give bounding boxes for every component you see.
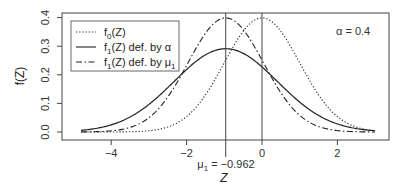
y-tick-label: 0.2	[39, 67, 51, 82]
y-tick-label: 0.4	[39, 10, 51, 25]
x-axis-title: Z	[219, 171, 228, 185]
x-tick-label: −4	[105, 147, 118, 159]
x-tick-label: 2	[334, 147, 340, 159]
alpha-annotation: α = 0.4	[336, 25, 370, 37]
vertical-reference-lines	[226, 13, 262, 157]
y-axis: 0.00.10.20.30.4	[39, 10, 62, 140]
x-axis: −4−202	[105, 140, 341, 159]
x-tick-label: 0	[259, 147, 265, 159]
legend: f0(Z)f1(Z) def. by αf1(Z) def. by μ1	[71, 21, 179, 71]
density-chart: 0.00.10.20.30.4 −4−202 f(Z) Z μ1 = −0.96…	[0, 0, 405, 187]
y-tick-label: 0.3	[39, 39, 51, 54]
x-tick-label: −2	[180, 147, 193, 159]
y-tick-label: 0.1	[39, 96, 51, 111]
y-axis-title: f(Z)	[13, 67, 27, 86]
y-tick-label: 0.0	[39, 124, 51, 139]
